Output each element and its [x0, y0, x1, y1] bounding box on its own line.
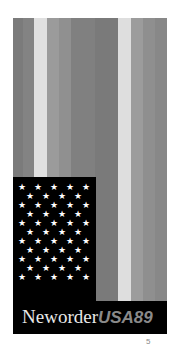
star-icon: ★ — [82, 256, 89, 263]
title-band: NeworderUSA89 — [13, 301, 167, 334]
star-icon: ★ — [26, 265, 33, 272]
star-icon: ★ — [34, 184, 41, 191]
star-icon: ★ — [58, 247, 65, 254]
star-icon: ★ — [42, 265, 49, 272]
star-icon: ★ — [26, 247, 33, 254]
star-icon: ★ — [42, 193, 49, 200]
title-primary: Neworder — [22, 306, 98, 327]
star-icon: ★ — [34, 238, 41, 245]
star-icon: ★ — [18, 220, 25, 227]
page: ★★★★★★★★★★★★★★★★★★★★★★★★★★★★★★★★★★★★★★★★… — [0, 0, 175, 358]
star-icon: ★ — [82, 220, 89, 227]
star-icon: ★ — [34, 274, 41, 281]
flag-cover-image: ★★★★★★★★★★★★★★★★★★★★★★★★★★★★★★★★★★★★★★★★… — [13, 18, 167, 334]
star-icon: ★ — [34, 256, 41, 263]
star-icon: ★ — [74, 229, 81, 236]
star-icon: ★ — [58, 265, 65, 272]
star-icon: ★ — [58, 229, 65, 236]
star-icon: ★ — [18, 256, 25, 263]
star-icon: ★ — [50, 184, 57, 191]
star-icon: ★ — [66, 256, 73, 263]
star-icon: ★ — [66, 274, 73, 281]
star-icon: ★ — [82, 274, 89, 281]
star-icon: ★ — [66, 202, 73, 209]
star-icon: ★ — [66, 220, 73, 227]
star-icon: ★ — [42, 211, 49, 218]
star-icon: ★ — [74, 265, 81, 272]
star-icon: ★ — [58, 193, 65, 200]
star-icon: ★ — [34, 220, 41, 227]
star-icon: ★ — [74, 211, 81, 218]
stripe-9 — [131, 18, 143, 302]
star-icon: ★ — [82, 238, 89, 245]
star-icon: ★ — [66, 184, 73, 191]
star-icon: ★ — [26, 211, 33, 218]
star-icon: ★ — [18, 274, 25, 281]
star-icon: ★ — [26, 193, 33, 200]
star-icon: ★ — [74, 193, 81, 200]
star-icon: ★ — [82, 202, 89, 209]
star-icon: ★ — [50, 274, 57, 281]
star-icon: ★ — [18, 202, 25, 209]
stripe-8 — [118, 18, 131, 302]
page-number: 5 — [146, 337, 150, 346]
title-secondary: USA89 — [98, 308, 153, 327]
star-icon: ★ — [50, 238, 57, 245]
star-icon: ★ — [66, 238, 73, 245]
star-icon: ★ — [74, 247, 81, 254]
star-icon: ★ — [50, 256, 57, 263]
star-icon: ★ — [18, 238, 25, 245]
star-icon: ★ — [42, 247, 49, 254]
star-icon: ★ — [50, 220, 57, 227]
cover-title: NeworderUSA89 — [22, 307, 153, 328]
star-icon: ★ — [58, 211, 65, 218]
stripe-11 — [155, 18, 167, 302]
star-canton: ★★★★★★★★★★★★★★★★★★★★★★★★★★★★★★★★★★★★★★★★… — [13, 177, 96, 303]
stripe-7 — [95, 18, 118, 302]
star-icon: ★ — [82, 184, 89, 191]
star-icon: ★ — [18, 184, 25, 191]
star-icon: ★ — [34, 202, 41, 209]
stripe-10 — [143, 18, 155, 302]
star-icon: ★ — [26, 229, 33, 236]
star-icon: ★ — [50, 202, 57, 209]
star-icon: ★ — [42, 229, 49, 236]
